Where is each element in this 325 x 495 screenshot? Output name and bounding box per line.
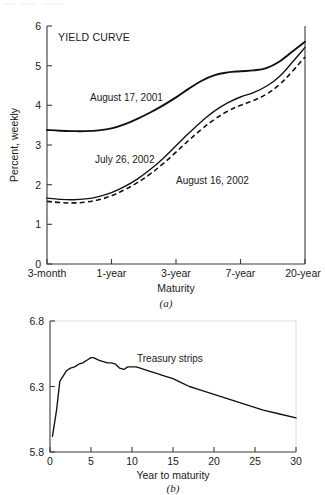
- panel-b-caption: (b): [167, 482, 180, 495]
- panel-b-x-ticks: [50, 447, 296, 452]
- scan-artifact: [3, 3, 64, 5]
- panel-b-xtick-25: 25: [249, 455, 261, 467]
- panel-b-xtick-5: 5: [88, 455, 94, 467]
- panel-a-ytick-6: 6: [35, 20, 41, 32]
- series-label-treasury-strips: Treasury strips: [137, 353, 203, 364]
- panel-b: 5.8 6.3 6.8 0 5 10 15 20 25 30 Year to: [29, 315, 302, 495]
- series-line-treasury-strips: [52, 358, 296, 437]
- panel-a-xtick-3-year: 3-year: [161, 267, 191, 279]
- panel-a-ytick-1: 1: [35, 218, 41, 230]
- panel-a-x-ticks: [47, 259, 305, 264]
- panel-b-axes: [50, 321, 296, 452]
- panel-a-ytick-3: 3: [35, 139, 41, 151]
- panel-a-title: YIELD CURVE: [58, 31, 130, 43]
- panel-b-xtick-30: 30: [290, 455, 302, 467]
- panel-a: 0 1 2 3 4 5 6 Percent, weekly 3-month 1-…: [8, 20, 321, 310]
- panel-a-y-axis-title: Percent, weekly: [8, 107, 20, 182]
- panel-a-xtick-3-month: 3-month: [28, 267, 67, 279]
- panel-a-caption: (a): [160, 297, 173, 310]
- series-label-july-26-2002: July 26, 2002: [95, 154, 155, 165]
- figure-container: 0 1 2 3 4 5 6 Percent, weekly 3-month 1-…: [0, 0, 325, 495]
- panel-a-x-axis-title: Maturity: [157, 282, 195, 294]
- panel-b-ytick-5-8: 5.8: [29, 446, 44, 458]
- panel-a-ytick-5: 5: [35, 60, 41, 72]
- panel-a-y-ticks: [47, 26, 52, 264]
- panel-b-ytick-6-8: 6.8: [29, 315, 44, 327]
- panel-b-xtick-10: 10: [126, 455, 138, 467]
- panel-a-xtick-20-year: 20-year: [285, 267, 321, 279]
- panel-b-x-axis-title: Year to maturity: [136, 469, 210, 481]
- panel-a-ytick-2: 2: [35, 179, 41, 191]
- panel-b-xtick-20: 20: [208, 455, 220, 467]
- panel-b-ytick-6-3: 6.3: [29, 381, 44, 393]
- panel-a-xtick-1-year: 1-year: [97, 267, 127, 279]
- panel-b-xtick-15: 15: [167, 455, 179, 467]
- series-label-august-17-2001: August 17, 2001: [90, 92, 163, 103]
- panel-a-ytick-4: 4: [35, 99, 41, 111]
- yield-curve-figure: 0 1 2 3 4 5 6 Percent, weekly 3-month 1-…: [0, 0, 325, 495]
- panel-b-light-frame: [50, 321, 296, 452]
- series-label-august-16-2002: August 16, 2002: [176, 175, 249, 186]
- panel-a-xtick-7-year: 7-year: [226, 267, 256, 279]
- panel-b-xtick-0: 0: [47, 455, 53, 467]
